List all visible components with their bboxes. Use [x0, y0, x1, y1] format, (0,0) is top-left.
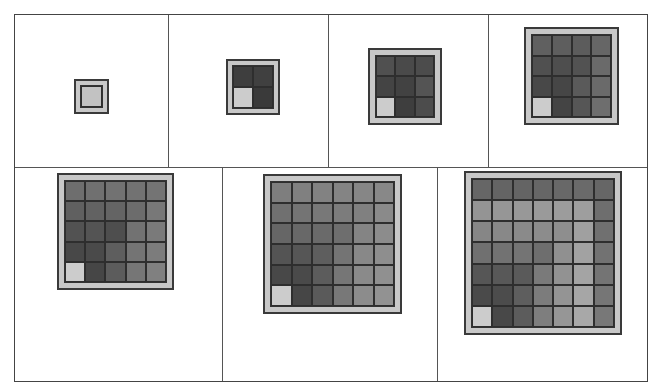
grid-cell — [353, 182, 374, 203]
grid-cell — [333, 285, 354, 306]
grid-cell — [312, 265, 333, 286]
corner-cell — [532, 97, 552, 118]
grid-cell — [374, 244, 395, 265]
grid-cell — [572, 35, 592, 56]
grid-cell — [65, 201, 85, 221]
grid-cell — [292, 223, 313, 244]
grid-cell — [415, 76, 434, 96]
grid-cell — [353, 285, 374, 306]
grid-cell — [533, 285, 553, 306]
grid-cell — [513, 200, 533, 221]
grid-cell — [532, 35, 552, 56]
grid-cell — [105, 221, 125, 241]
grid-cell — [573, 264, 593, 285]
grid-cell — [594, 221, 614, 242]
grid-cell — [333, 223, 354, 244]
row-divider — [15, 167, 647, 168]
grid-1x1 — [74, 79, 109, 114]
grid-cell — [415, 97, 434, 117]
grid-cell — [472, 221, 492, 242]
grid-cell — [553, 306, 573, 327]
grid-cell — [532, 76, 552, 97]
grid-cell — [513, 242, 533, 263]
grid-cell — [312, 182, 333, 203]
grid-cell — [532, 56, 552, 77]
column-divider — [488, 15, 489, 167]
grid-cell — [513, 306, 533, 327]
grid-cell — [271, 223, 292, 244]
grid-cell — [553, 200, 573, 221]
grid-cell — [271, 265, 292, 286]
grid-cell — [105, 262, 125, 282]
grid-cell — [105, 242, 125, 262]
grid-cell — [85, 181, 105, 201]
corner-cell — [271, 285, 292, 306]
grid-cell — [146, 181, 166, 201]
grid-cell — [472, 200, 492, 221]
grid-cell — [126, 181, 146, 201]
grid-cell — [333, 203, 354, 224]
grid-cell — [594, 200, 614, 221]
grid-cell — [492, 221, 512, 242]
grid-cell — [553, 264, 573, 285]
grid-cell — [146, 221, 166, 241]
grid-cell — [146, 262, 166, 282]
grid-cell — [472, 242, 492, 263]
grid-cell — [513, 179, 533, 200]
grid-cell — [312, 203, 333, 224]
grid-cell — [105, 181, 125, 201]
grid-cell — [312, 285, 333, 306]
grid-cell — [312, 244, 333, 265]
grid-cell — [126, 221, 146, 241]
grid-cell — [552, 56, 572, 77]
grid-cell — [553, 242, 573, 263]
grid-cell — [573, 179, 593, 200]
grid-3x3 — [368, 48, 442, 125]
grid-2x2 — [226, 59, 280, 115]
grid-cell — [573, 306, 593, 327]
grid-cell — [492, 242, 512, 263]
grid-4x4 — [524, 27, 619, 125]
grid-cell — [126, 242, 146, 262]
grid-cell — [271, 203, 292, 224]
grid-cell — [573, 221, 593, 242]
grid-7x7 — [464, 171, 622, 335]
grid-cell — [533, 200, 553, 221]
grid-cell — [553, 221, 573, 242]
grid-cell — [292, 285, 313, 306]
grid-cell — [472, 264, 492, 285]
grid-cell — [472, 285, 492, 306]
corner-cell — [233, 87, 253, 108]
grid-cell — [376, 76, 395, 96]
grid-cell — [591, 35, 611, 56]
grid-cell — [553, 285, 573, 306]
grid-cell — [594, 179, 614, 200]
grid-cell — [376, 56, 395, 76]
grid-cell — [85, 242, 105, 262]
grid-cell — [126, 201, 146, 221]
grid-5x5 — [57, 173, 174, 290]
grid-cell — [374, 203, 395, 224]
grid-cell — [65, 221, 85, 241]
grid-cell — [333, 265, 354, 286]
grid-cell — [85, 262, 105, 282]
grid-6x6 — [263, 174, 402, 314]
grid-cell — [395, 76, 414, 96]
grid-cell — [292, 182, 313, 203]
grid-cell — [572, 76, 592, 97]
grid-cell — [353, 244, 374, 265]
grid-cell — [353, 223, 374, 244]
grid-cell — [353, 203, 374, 224]
grid-cell — [472, 179, 492, 200]
column-divider — [437, 167, 438, 381]
grid-cell — [492, 179, 512, 200]
corner-cell — [472, 306, 492, 327]
grid-cell — [415, 56, 434, 76]
grid-cell — [492, 285, 512, 306]
grid-cell — [533, 179, 553, 200]
column-divider — [222, 167, 223, 381]
grid-cell — [513, 264, 533, 285]
grid-cell — [374, 265, 395, 286]
grid-cell — [594, 285, 614, 306]
grid-cell — [312, 223, 333, 244]
